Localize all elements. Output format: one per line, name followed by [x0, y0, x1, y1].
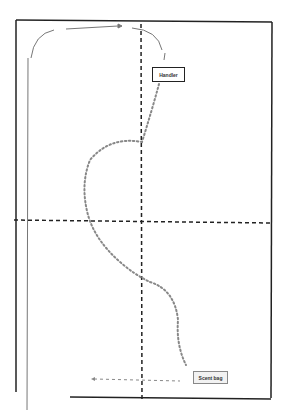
bottom-arrow	[94, 379, 180, 381]
handler-label: Handler	[152, 67, 185, 82]
scent-trail	[84, 84, 186, 365]
bottom-arrow-head	[91, 377, 95, 381]
frame	[16, 20, 272, 399]
left-guide-line	[27, 58, 28, 410]
vertical-axis	[141, 24, 142, 400]
scent-bag-label: Scent bag	[193, 371, 228, 384]
top-route	[31, 24, 165, 60]
diagram-canvas	[0, 0, 286, 418]
